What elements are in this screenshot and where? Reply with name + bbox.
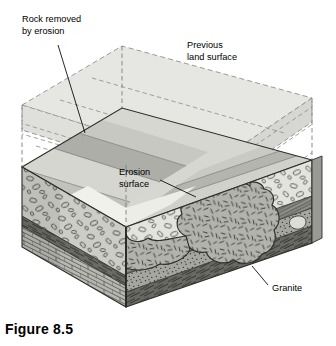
label-granite: Granite — [272, 283, 302, 293]
label-rock-removed-line1: Rock removed — [22, 14, 81, 24]
label-previous-land-surface-line1: Previous — [187, 40, 223, 50]
label-previous-land-surface-line2: land surface — [187, 52, 237, 62]
block-far-edge-face — [312, 156, 322, 243]
figure-root: Rock removed by erosion Previous land su… — [0, 0, 336, 346]
label-erosion-surface-line1: Erosion — [119, 167, 150, 177]
figure-caption: Figure 8.5 — [5, 321, 73, 337]
block-diagram: Rock removed by erosion Previous land su… — [0, 0, 336, 346]
label-erosion-surface-line2: surface — [119, 179, 149, 189]
label-rock-removed-line2: by erosion — [22, 26, 64, 36]
label-previous-land-surface: Previous land surface — [187, 40, 237, 62]
granite-xenolith — [289, 216, 306, 229]
leader-granite — [252, 266, 268, 285]
label-granite-text: Granite — [272, 283, 302, 293]
label-rock-removed: Rock removed by erosion — [22, 14, 81, 36]
